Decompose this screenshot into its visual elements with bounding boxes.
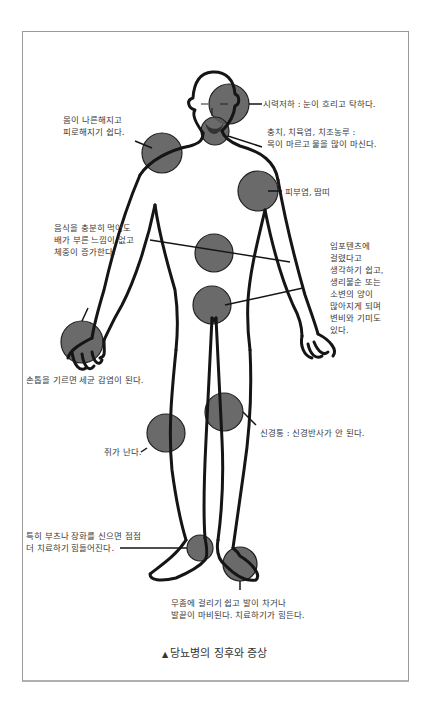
triangle-icon: ▲ [162, 650, 168, 659]
label-nails: 손톱을 기르면 세균 감염이 된다. [26, 374, 144, 386]
label-neuralgia: 신경통 : 신경반사가 안 된다. [260, 427, 364, 439]
label-urinary: 임포텐츠에 걸렸다고 생각하기 쉽고, 생리불순 또는 소변의 양이 많아지게 … [330, 240, 383, 336]
calf-circle [147, 414, 185, 452]
label-vision: 시력저하 : 눈이 흐리고 탁하다. [263, 98, 375, 110]
stomach-circle [195, 234, 233, 272]
caption-text: 당뇨병의 징후와 증상 [170, 647, 267, 660]
label-athletes-foot: 무좀에 걸리기 쉽고 발이 차거나 발끝이 마비된다. 치료하기가 힘든다. [171, 597, 305, 621]
label-skin: 피부염, 땀띠 [285, 186, 330, 198]
label-cramp: 쥐가 난다. [104, 446, 141, 458]
label-appetite: 음식을 충분히 먹어도 배가 부른 느낌이 없고 체중이 증가한다. [54, 222, 134, 258]
figure-caption: ▲당뇨병의 징후와 증상 [0, 644, 429, 660]
label-boots: 특히 부츠나 장화를 신으면 점점 더 치료하기 힘들어진다. [26, 530, 141, 554]
knee-circle [205, 393, 243, 431]
ankle-circle [187, 535, 213, 561]
label-teeth: 충치, 치육염, 치조농루 : 목이 마르고 물을 많이 마신다. [267, 126, 377, 150]
label-fatigue: 몸이 나른해지고 피로해지기 쉽다. [63, 114, 124, 138]
